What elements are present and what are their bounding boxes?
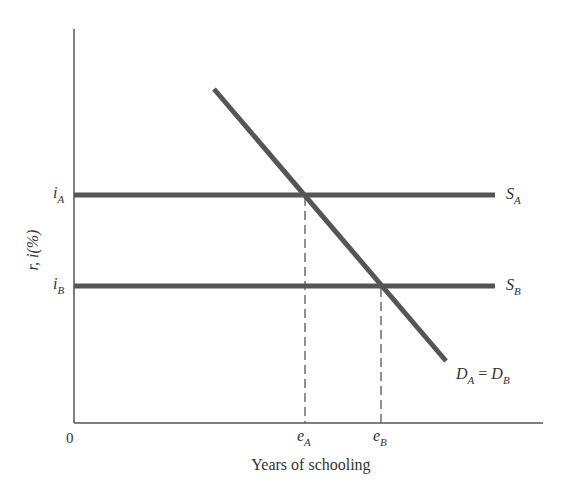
x-tick-e-b: eB — [373, 427, 387, 448]
x-tick-e-a: eA — [297, 427, 311, 448]
x-axis-label: Years of schooling — [251, 456, 370, 474]
diagram-canvas: 0 Years of schooling r, i(%) iA iB eA eB… — [0, 0, 572, 490]
supply-a-label: SA — [506, 185, 521, 206]
origin-label: 0 — [66, 430, 74, 446]
y-tick-i-b: iB — [53, 275, 64, 296]
y-axis-label: r, i(%) — [24, 230, 42, 271]
y-tick-i-a: iA — [53, 184, 64, 205]
demand-label: DA = DB — [455, 365, 510, 386]
demand-line — [214, 89, 446, 361]
supply-b-label: SB — [506, 276, 521, 297]
